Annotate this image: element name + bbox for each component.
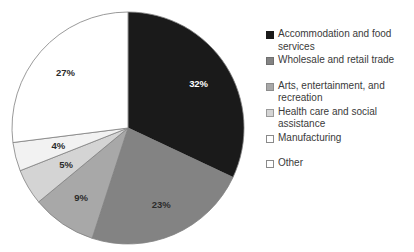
pie-slice-label: 27% <box>56 67 75 78</box>
legend-swatch-icon <box>266 135 274 143</box>
pie-slice-label: 9% <box>74 192 88 203</box>
legend-swatch-icon <box>266 31 274 39</box>
legend-item[interactable]: Arts, entertainment, and recreation <box>266 80 414 105</box>
legend-item-label: Wholesale and retail trade <box>278 54 394 67</box>
pie-chart-figure: 32%23%9%5%4%27% Accommodation and food s… <box>0 0 414 252</box>
pie-slice-label: 5% <box>59 159 73 170</box>
pie-svg: 32%23%9%5%4%27% <box>0 0 256 252</box>
legend-item-label: Manufacturing <box>278 132 341 145</box>
pie-plot-area: 32%23%9%5%4%27% <box>0 0 256 252</box>
pie-slice-label: 4% <box>52 140 66 151</box>
pie-slice-label: 23% <box>152 199 171 210</box>
legend-item-label: Arts, entertainment, and recreation <box>278 80 385 105</box>
legend-item-label: Other <box>278 157 303 170</box>
legend-item[interactable]: Health care and social assistance <box>266 106 414 131</box>
legend-item[interactable]: Manufacturing <box>266 132 414 145</box>
chart-legend: Accommodation and food servicesWholesale… <box>266 28 414 171</box>
legend-item[interactable]: Other <box>266 157 414 170</box>
legend-item-label: Accommodation and food services <box>278 28 391 53</box>
legend-swatch-icon <box>266 57 274 65</box>
legend-swatch-icon <box>266 109 274 117</box>
pie-slices <box>12 12 244 244</box>
legend-item-label: Health care and social assistance <box>278 106 377 131</box>
legend-item[interactable]: Accommodation and food services <box>266 28 414 53</box>
legend-swatch-icon <box>266 83 274 91</box>
pie-slice-label: 32% <box>189 78 208 89</box>
legend-swatch-icon <box>266 160 274 168</box>
legend-item[interactable]: Wholesale and retail trade <box>266 54 414 67</box>
